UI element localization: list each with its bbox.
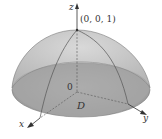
apex-label: (0, 0, 1) — [80, 15, 116, 24]
region-d-label: D — [77, 101, 85, 111]
z-axis-label: z — [69, 3, 74, 12]
x-axis-label: x — [19, 120, 24, 129]
x-axis-arrow — [27, 122, 34, 128]
paraboloid-diagram: z (0, 0, 1) 0 D x y — [0, 0, 162, 139]
origin-label: 0 — [67, 83, 73, 92]
y-axis-label: y — [143, 114, 148, 123]
z-axis-arrow — [75, 3, 79, 9]
apex-point — [76, 29, 78, 31]
